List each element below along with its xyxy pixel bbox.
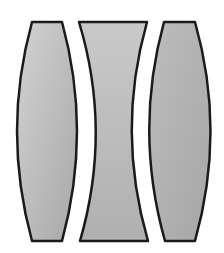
lens-diagram <box>0 0 224 253</box>
middle-biconcave-lens <box>79 22 148 241</box>
right-biconvex-lens <box>149 22 210 241</box>
left-biconvex-lens <box>17 22 77 241</box>
lens-diagram-canvas <box>0 0 224 253</box>
